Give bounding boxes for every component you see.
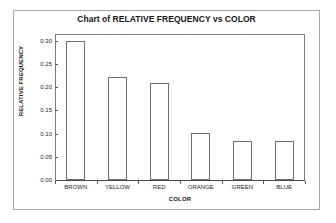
y-tick-label: 0.20: [12, 84, 52, 90]
y-tick-label: 0.05: [12, 154, 52, 160]
chart-title: Chart of RELATIVE FREQUENCY vs COLOR: [13, 14, 320, 24]
x-tick-mark: [180, 181, 181, 184]
x-tick-mark: [138, 181, 139, 184]
y-tick-label: 0.15: [12, 107, 52, 113]
x-tick-mark: [55, 181, 56, 184]
y-tick-mark: [55, 41, 58, 42]
x-tick-mark: [222, 181, 223, 184]
bar: [66, 41, 85, 180]
bar: [150, 83, 169, 180]
y-tick-mark: [55, 87, 58, 88]
y-tick-mark: [55, 134, 58, 135]
bar: [191, 133, 210, 180]
x-tick-mark: [305, 181, 306, 184]
plot-area: [55, 34, 305, 180]
x-category-label: GREEN: [232, 184, 253, 190]
y-tick-mark: [55, 64, 58, 65]
x-category-label: YELLOW: [105, 184, 130, 190]
y-tick-label: 0.00: [12, 177, 52, 183]
bar: [275, 141, 294, 180]
bar: [233, 141, 252, 180]
bar: [108, 77, 127, 180]
x-category-label: RED: [153, 184, 166, 190]
chart-figure: Chart of RELATIVE FREQUENCY vs COLOR REL…: [0, 0, 336, 223]
y-tick-mark: [55, 157, 58, 158]
y-tick-label: 0.30: [12, 38, 52, 44]
x-category-label: ORANGE: [188, 184, 214, 190]
y-tick-mark: [55, 110, 58, 111]
x-category-label: BLUE: [276, 184, 292, 190]
x-tick-mark: [97, 181, 98, 184]
y-tick-label: 0.10: [12, 131, 52, 137]
x-axis-title: COLOR: [55, 196, 305, 202]
x-tick-mark: [263, 181, 264, 184]
y-tick-label: 0.25: [12, 61, 52, 67]
y-axis-ticks: 0.000.050.100.150.200.250.30: [8, 0, 52, 223]
x-category-label: BROWN: [64, 184, 87, 190]
